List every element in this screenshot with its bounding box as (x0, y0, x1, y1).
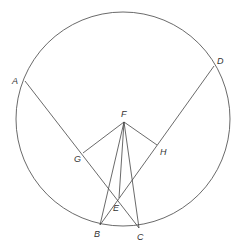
label-point-b: B (94, 229, 100, 239)
label-point-a: A (11, 76, 18, 86)
segments (25, 66, 214, 228)
label-point-h: H (160, 147, 167, 157)
label-point-c: C (137, 232, 144, 242)
circle (16, 12, 230, 226)
segment-db (100, 66, 214, 225)
label-point-e: E (113, 203, 120, 213)
geometry-diagram: ADFGHEBC (0, 0, 242, 250)
label-point-g: G (74, 154, 81, 164)
label-point-f: F (121, 109, 127, 119)
segment-fh (124, 122, 157, 145)
label-point-d: D (217, 56, 224, 66)
